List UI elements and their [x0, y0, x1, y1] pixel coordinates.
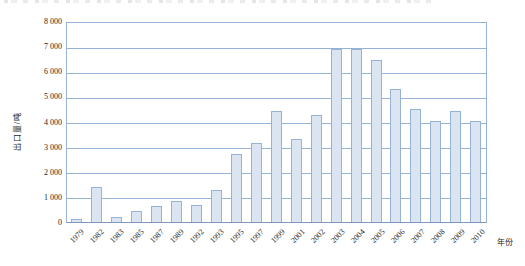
x-tick-label: 2004 [349, 228, 366, 245]
x-tick-label: 1982 [89, 228, 106, 245]
bar [71, 219, 82, 222]
plot-area [66, 22, 487, 223]
x-tick-label: 2003 [329, 228, 346, 245]
bar [271, 111, 282, 222]
x-tick-label: 1992 [189, 228, 206, 245]
bar [390, 89, 401, 222]
x-tick-label: 2007 [410, 228, 427, 245]
x-tick-label: 2008 [430, 228, 447, 245]
x-tick-label: 1995 [229, 228, 246, 245]
bar [231, 154, 242, 222]
y-tick-label: 0 [18, 219, 62, 227]
cropped-text-remnant [4, 0, 436, 3]
bar-series [67, 23, 486, 222]
x-tick-label: 1987 [149, 228, 166, 245]
bar [211, 190, 222, 222]
x-tick-label: 1993 [209, 228, 226, 245]
y-tick-label: 7 000 [18, 43, 62, 51]
bar [450, 111, 461, 222]
bar [151, 206, 162, 222]
bar [311, 115, 322, 222]
y-tick-label: 5 000 [18, 93, 62, 101]
x-tick-label: 2009 [450, 228, 467, 245]
bar [371, 60, 382, 222]
y-tick-label: 2 000 [18, 169, 62, 177]
x-tick-label: 1983 [109, 228, 126, 245]
x-tick-label: 2002 [309, 228, 326, 245]
bar [410, 109, 421, 222]
x-tick-label: 1989 [169, 228, 186, 245]
y-tick-label: 3 000 [18, 144, 62, 152]
export-volume-bar-chart: 出口量/吨 8 0007 0006 0005 0004 0003 0002 00… [0, 0, 525, 266]
x-tick-label: 2005 [369, 228, 386, 245]
bar [131, 211, 142, 222]
bar [470, 121, 481, 222]
y-tick-label: 4 000 [18, 119, 62, 127]
bar [331, 49, 342, 222]
bar [191, 205, 202, 222]
x-tick-label: 1997 [249, 228, 266, 245]
bar [91, 187, 102, 222]
x-tick-label: 1979 [69, 228, 86, 245]
bar [251, 143, 262, 222]
bar [430, 121, 441, 222]
y-tick-label: 1 000 [18, 194, 62, 202]
y-tick-label: 8 000 [18, 18, 62, 26]
x-tick-label: 2001 [289, 228, 306, 245]
bar [291, 139, 302, 222]
bar [351, 49, 362, 222]
x-tick-label: 2010 [470, 228, 487, 245]
x-tick-label: 1999 [269, 228, 286, 245]
bar [171, 201, 182, 222]
x-axis-title: 年份 [497, 236, 513, 247]
x-tick-label: 1985 [129, 228, 146, 245]
bar [111, 217, 122, 222]
y-tick-label: 6 000 [18, 68, 62, 76]
y-axis-title: 出口量/吨 [11, 100, 22, 164]
x-tick-label: 2006 [389, 228, 406, 245]
